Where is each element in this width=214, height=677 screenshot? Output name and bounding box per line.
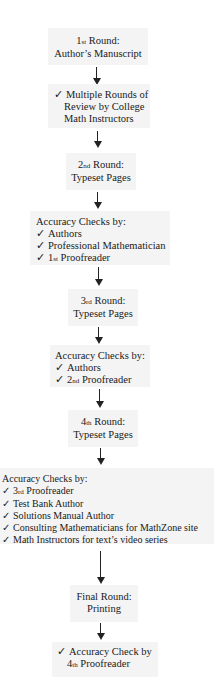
checks-heading: Accuracy Checks by: (36, 216, 170, 228)
checks-heading: Accuracy Checks by: (2, 473, 214, 485)
checkmark-icon: ✓ (54, 89, 63, 100)
checks-heading: Accuracy Checks by: (55, 350, 150, 362)
checkmark-icon: ✓ (2, 485, 10, 496)
check-item: ✓Authors (55, 362, 150, 374)
arrow-down-icon (92, 67, 102, 85)
node-label: Accuracy Check by (69, 646, 152, 657)
checkmark-icon: ✓ (2, 522, 10, 533)
node-label: Round: (90, 159, 124, 170)
node-label: Printing (70, 603, 138, 615)
node-round1-authors-manuscript: 1st Round: Author’s Manuscript (48, 28, 148, 65)
checkmark-icon: ✓ (2, 498, 10, 509)
arrow-down-icon (96, 448, 106, 466)
check-item: ✓2nd Proofreader (55, 374, 150, 387)
node-label: Round: (92, 295, 126, 306)
node-label: Multiple Rounds of (66, 89, 148, 100)
arrow-down-icon (96, 551, 106, 585)
checkmark-icon: ✓ (36, 240, 45, 251)
checkmark-icon: ✓ (55, 362, 64, 373)
arrow-down-icon (93, 192, 103, 210)
arrow-down-icon (96, 623, 106, 641)
check-item: ✓1st Proofreader (36, 252, 170, 265)
arrow-down-icon (95, 389, 105, 409)
node-accuracy-check-4th-proofreader: ✓Accuracy Check by 4th Proofreader (52, 642, 158, 677)
checkmark-icon: ✓ (2, 510, 10, 521)
checkmark-icon: ✓ (55, 374, 64, 385)
check-item: ✓Test Bank Author (2, 498, 214, 510)
node-round3-typeset-pages: 3rd Round: Typeset Pages (68, 289, 138, 326)
node-label: Round: (92, 416, 126, 427)
node-label: Typeset Pages (68, 308, 138, 320)
check-item: ✓Solutions Manual Author (2, 510, 214, 522)
node-accuracy-checks-round4: Accuracy Checks by: ✓3rd Proofreader ✓Te… (0, 468, 214, 544)
check-item: ✓Professional Mathematician (36, 240, 170, 252)
check-item: ✓Authors (36, 228, 170, 240)
node-label: Round: (86, 35, 120, 46)
node-label: Typeset Pages (66, 172, 136, 184)
checkmark-icon: ✓ (2, 534, 10, 545)
node-label: Math Instructors (54, 113, 150, 125)
checkmark-icon: ✓ (36, 252, 45, 263)
arrow-down-icon (94, 327, 104, 345)
node-review-college-instructors: ✓Multiple Rounds of Review by College Ma… (48, 84, 150, 128)
node-final-round-printing: Final Round: Printing (70, 585, 138, 622)
arrow-down-icon (94, 267, 104, 287)
checkmark-icon: ✓ (36, 228, 45, 239)
check-item: ✓Consulting Mathematicians for MathZone … (2, 522, 214, 534)
node-accuracy-checks-round3: Accuracy Checks by: ✓Authors ✓2nd Proofr… (50, 345, 150, 387)
node-label: Review by College (54, 101, 150, 113)
node-round4-typeset-pages: 4th Round: Typeset Pages (68, 410, 138, 447)
node-label: Author’s Manuscript (48, 48, 148, 60)
arrow-down-icon (93, 131, 103, 149)
check-item: ✓Math Instructors for text’s video serie… (2, 534, 214, 546)
node-round2-typeset-pages: 2nd Round: Typeset Pages (66, 153, 136, 190)
node-label: Final Round: (70, 591, 138, 603)
node-label: Typeset Pages (68, 429, 138, 441)
check-item: ✓3rd Proofreader (2, 485, 214, 498)
checkmark-icon: ✓ (57, 646, 66, 657)
node-accuracy-checks-round2: Accuracy Checks by: ✓Authors ✓Profession… (30, 211, 170, 265)
